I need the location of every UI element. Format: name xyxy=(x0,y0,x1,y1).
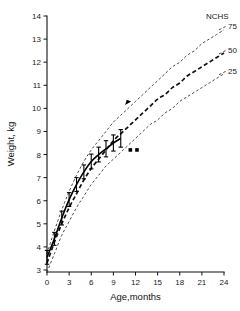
y-tick-label: 3 xyxy=(37,266,42,275)
y-tick-label: 6 xyxy=(37,197,42,206)
x-tick-label: 18 xyxy=(175,278,184,287)
y-axis-title: Weight, kg xyxy=(5,122,16,167)
x-axis-title: Age,months xyxy=(110,291,161,302)
y-tick-label: 14 xyxy=(32,12,41,21)
square-marker-2 xyxy=(135,148,139,152)
growth-chart: 34567891011121314 03691215182124 NCHS 75… xyxy=(0,0,240,311)
x-tick-label: 3 xyxy=(67,278,72,287)
x-tick-label: 0 xyxy=(45,278,50,287)
y-tick-label: 10 xyxy=(32,104,41,113)
x-tick-label: 24 xyxy=(220,278,229,287)
x-tick-label: 6 xyxy=(89,278,94,287)
y-tick-label: 4 xyxy=(37,243,42,252)
chart-canvas: 34567891011121314 03691215182124 NCHS 75… xyxy=(0,0,240,311)
y-tick-label: 13 xyxy=(32,35,41,44)
curve-label-p50: 50 xyxy=(228,46,237,55)
y-tick-label: 8 xyxy=(37,151,42,160)
x-tick-label: 21 xyxy=(197,278,206,287)
curve-label-p25: 25 xyxy=(228,67,237,76)
y-tick-label: 11 xyxy=(33,81,42,90)
x-tick-label: 15 xyxy=(153,278,162,287)
legend-heading: NCHS xyxy=(206,12,229,21)
x-tick-label: 9 xyxy=(111,278,116,287)
square-marker-1 xyxy=(129,148,133,152)
y-tick-label: 9 xyxy=(37,127,42,136)
y-tick-label: 5 xyxy=(37,220,42,229)
y-tick-label: 12 xyxy=(32,58,41,67)
y-tick-label: 7 xyxy=(37,174,42,183)
x-tick-label: 12 xyxy=(131,278,140,287)
curve-label-p75: 75 xyxy=(228,22,237,31)
